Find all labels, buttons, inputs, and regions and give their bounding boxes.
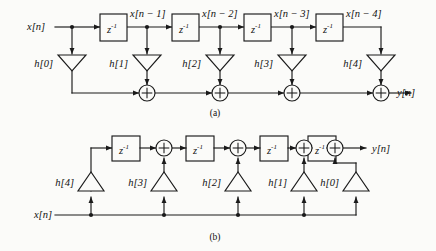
caption-a: (a) (210, 108, 221, 119)
b-node-h1 (302, 213, 306, 217)
b-adder-1 (156, 140, 172, 156)
a-adder-4 (373, 85, 389, 101)
a-coef-label-h0: h[0] (34, 58, 53, 69)
b-input-label: x[n] (33, 209, 52, 220)
b-coef-label-h4: h[4] (55, 177, 74, 188)
b-coef-label-h1: h[1] (268, 177, 287, 188)
signal-flow-diagram-svg: x[n] y[n] z-1 z-1 z-1 z-1 x[n − 1] x[n −… (0, 0, 436, 251)
a-adder-2 (212, 85, 228, 101)
b-coef-label-h3: h[3] (128, 177, 147, 188)
b-adder-3 (296, 140, 312, 156)
a-node-3 (290, 25, 294, 29)
a-node-0 (70, 25, 74, 29)
a-signal-label-3: x[n − 3] (273, 8, 310, 19)
b-node-h4 (89, 213, 93, 217)
a-adder-3 (284, 85, 300, 101)
figure-background (0, 0, 436, 251)
a-output-label: y[n] (396, 87, 415, 98)
figure-canvas: x[n] y[n] z-1 z-1 z-1 z-1 x[n − 1] x[n −… (0, 0, 436, 251)
b-output-label: y[n] (371, 143, 390, 154)
a-signal-label-4: x[n − 4] (345, 8, 382, 19)
a-coef-label-h2: h[2] (182, 58, 201, 69)
a-coef-label-h1: h[1] (109, 58, 128, 69)
caption-b: (b) (209, 232, 220, 243)
a-node-1 (145, 25, 149, 29)
b-node-h3 (162, 213, 166, 217)
b-adder-2 (230, 140, 246, 156)
b-coef-label-h2: h[2] (202, 177, 221, 188)
a-coef-label-h4: h[4] (343, 58, 362, 69)
b-adder-4 (327, 140, 343, 156)
a-signal-label-1: x[n − 1] (129, 8, 166, 19)
a-input-label: x[n] (26, 21, 45, 32)
a-adder-1 (139, 85, 155, 101)
a-node-2 (218, 25, 222, 29)
a-coef-label-h3: h[3] (254, 58, 273, 69)
b-node-h2 (236, 213, 240, 217)
b-coef-label-h0: h[0] (320, 177, 339, 188)
a-signal-label-2: x[n − 2] (201, 8, 238, 19)
